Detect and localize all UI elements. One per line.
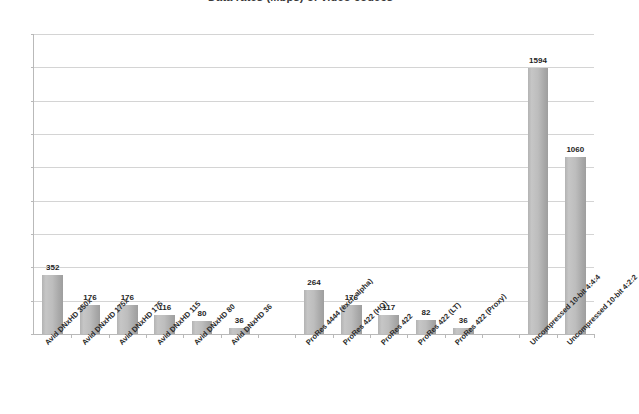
x-tick-mark: [146, 334, 147, 338]
y-tick-mark: [31, 234, 34, 235]
bar[interactable]: [528, 68, 549, 334]
gridline: [34, 201, 594, 202]
bar-value-label: 264: [295, 279, 332, 287]
gridline: [34, 34, 594, 35]
x-tick-mark: [519, 334, 520, 338]
x-tick-mark: [183, 334, 184, 338]
y-tick-mark: [31, 301, 34, 302]
x-tick-mark: [557, 334, 558, 338]
x-tick-mark: [333, 334, 334, 338]
bar-value-label: 1594: [519, 57, 556, 65]
y-tick-mark: [31, 34, 34, 35]
x-tick-mark: [407, 334, 408, 338]
x-tick-mark: [370, 334, 371, 338]
gridline: [34, 267, 594, 268]
bar-value-label: 1060: [557, 146, 594, 154]
gridline: [34, 67, 594, 68]
y-tick-mark: [31, 201, 34, 202]
y-tick-mark: [31, 101, 34, 102]
x-tick-mark: [295, 334, 296, 338]
x-tick-mark: [221, 334, 222, 338]
gridline: [34, 134, 594, 135]
chart-title: Data rates (Mbps) of video codecs: [0, 0, 601, 5]
x-tick-mark: [258, 334, 259, 338]
y-tick-mark: [31, 167, 34, 168]
gridline: [34, 234, 594, 235]
plot-area: 020040060080010001200140016001800 352176…: [33, 34, 594, 335]
bar-value-label: 352: [34, 264, 71, 272]
x-tick-mark: [109, 334, 110, 338]
gridline: [34, 101, 594, 102]
gridline: [34, 167, 594, 168]
x-tick-mark: [445, 334, 446, 338]
y-tick-mark: [31, 334, 34, 335]
y-tick-mark: [31, 134, 34, 135]
x-tick-mark: [594, 334, 595, 338]
x-tick-mark: [71, 334, 72, 338]
x-tick-mark: [482, 334, 483, 338]
y-tick-mark: [31, 67, 34, 68]
